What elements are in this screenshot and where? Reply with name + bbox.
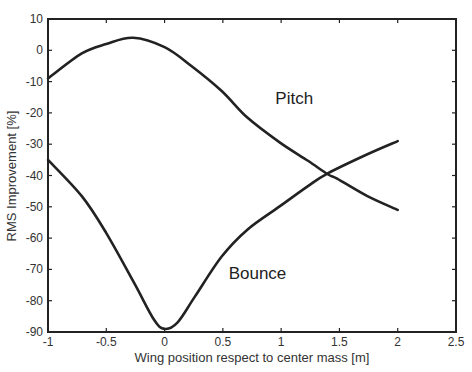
y-tick-label: -70 (26, 262, 44, 276)
y-axis-label: RMS Improvement [%] (4, 111, 19, 242)
x-tick-label: -0.5 (96, 335, 117, 349)
y-tick-label: -80 (26, 294, 44, 308)
x-tick-label: 0.5 (215, 335, 232, 349)
series-line-pitch (48, 38, 398, 210)
y-tick-label: -90 (26, 325, 44, 339)
x-axis-ticks: -1-0.500.511.522.5 (43, 19, 465, 349)
y-tick-label: -40 (26, 169, 44, 183)
x-tick-label: 2.5 (448, 335, 465, 349)
y-tick-label: -20 (26, 106, 44, 120)
y-tick-label: -10 (26, 75, 44, 89)
series-lines (48, 38, 398, 329)
x-axis-label: Wing position respect to center mass [m] (135, 350, 370, 365)
series-line-bounce (48, 141, 398, 329)
x-tick-label: 2 (394, 335, 401, 349)
series-label-pitch: Pitch (275, 89, 313, 108)
y-axis-ticks: 100-10-20-30-40-50-60-70-80-90 (26, 12, 456, 339)
y-tick-label: -50 (26, 200, 44, 214)
y-tick-label: 10 (30, 12, 44, 26)
series-label-bounce: Bounce (229, 264, 287, 283)
y-tick-label: 0 (36, 43, 43, 57)
series-labels: PitchBounce (229, 89, 313, 283)
plot-area (48, 19, 456, 332)
y-tick-label: -30 (26, 137, 44, 151)
y-tick-label: -60 (26, 231, 44, 245)
plot-frame (48, 19, 456, 332)
line-chart: 100-10-20-30-40-50-60-70-80-90 -1-0.500.… (0, 0, 472, 372)
x-tick-label: 1 (278, 335, 285, 349)
x-tick-label: 0 (161, 335, 168, 349)
x-tick-label: 1.5 (331, 335, 348, 349)
x-tick-label: -1 (43, 335, 54, 349)
